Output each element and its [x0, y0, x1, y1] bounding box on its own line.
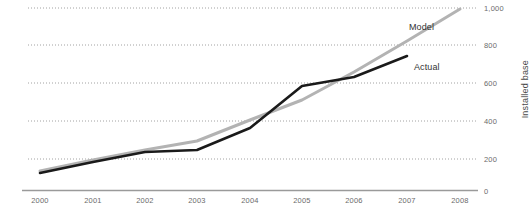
line-chart: 2000 2001 2002 2003 2004 2005 2006 2007 …	[0, 0, 532, 219]
series-label-actual: Actual	[414, 62, 440, 72]
y-tick-400: 400	[484, 117, 497, 126]
x-tick-2006: 2006	[345, 196, 363, 205]
x-tick-2007: 2007	[398, 196, 416, 205]
x-tick-2005: 2005	[293, 196, 311, 205]
x-tick-2003: 2003	[188, 196, 206, 205]
y-tick-800: 800	[484, 41, 497, 50]
series-line-model	[40, 9, 460, 171]
y-tick-0: 0	[484, 187, 488, 196]
x-tick-2004: 2004	[241, 196, 259, 205]
x-tick-2008: 2008	[451, 196, 469, 205]
y-axis-title: Installed base	[520, 60, 530, 118]
x-tick-2000: 2000	[31, 196, 49, 205]
chart-plot-area	[0, 0, 532, 219]
y-tick-1000: 1,000	[484, 4, 504, 13]
series-label-model: Model	[409, 22, 434, 32]
y-tick-600: 600	[484, 79, 497, 88]
x-tick-2002: 2002	[136, 196, 154, 205]
y-tick-200: 200	[484, 155, 497, 164]
x-tick-2001: 2001	[84, 196, 102, 205]
